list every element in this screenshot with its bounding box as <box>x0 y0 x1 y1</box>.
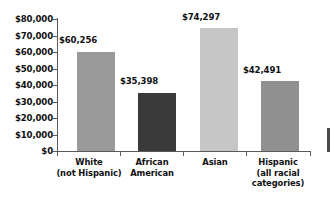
y-tick-label: $50,000 <box>15 63 53 75</box>
bar-chart: $80,000 $70,000 $60,000 $50,000 $40,000 … <box>0 0 331 200</box>
x-category-line: categories) <box>242 178 314 189</box>
x-category-line: (not Hispanic) <box>53 168 125 179</box>
x-axis-line <box>57 151 311 152</box>
bar-hispanic <box>261 81 299 151</box>
x-tickmark <box>57 152 58 156</box>
x-category-line: White <box>53 157 125 168</box>
x-tickmark <box>310 152 311 156</box>
x-category-line: African <box>116 157 188 168</box>
y-tick-label: $60,000 <box>15 46 53 58</box>
x-tickmark <box>246 152 247 156</box>
bar-value-label: $42,491 <box>227 65 297 75</box>
y-tick-label: $30,000 <box>15 96 53 108</box>
y-tick-label: $20,000 <box>15 112 53 124</box>
bar-african-american <box>138 93 176 151</box>
x-category-label-hispanic: Hispanic (all racial categories) <box>242 157 314 189</box>
x-category-label-asian: Asian <box>179 157 251 168</box>
x-category-line: Hispanic <box>242 157 314 168</box>
x-category-label-african-american: African American <box>116 157 188 178</box>
x-category-line: American <box>116 168 188 179</box>
y-axis-ticks: $80,000 $70,000 $60,000 $50,000 $40,000 … <box>0 0 53 200</box>
y-tick-label: $80,000 <box>15 13 53 25</box>
x-category-line: (all racial <box>242 168 314 179</box>
page-edge-artifact <box>327 128 330 152</box>
bar-white-not-hispanic <box>77 52 115 151</box>
y-tick-label: $0 <box>41 145 53 157</box>
bar-value-label: $35,398 <box>104 76 174 86</box>
y-tick-label: $40,000 <box>15 79 53 91</box>
x-tickmark <box>183 152 184 156</box>
bar-asian <box>200 28 238 151</box>
bar-value-label: $74,297 <box>166 12 236 22</box>
x-tickmark <box>120 152 121 156</box>
x-category-line: Asian <box>179 157 251 168</box>
y-tick-label: $10,000 <box>15 129 53 141</box>
x-category-label-white: White (not Hispanic) <box>53 157 125 178</box>
bar-value-label: $60,256 <box>43 35 113 45</box>
